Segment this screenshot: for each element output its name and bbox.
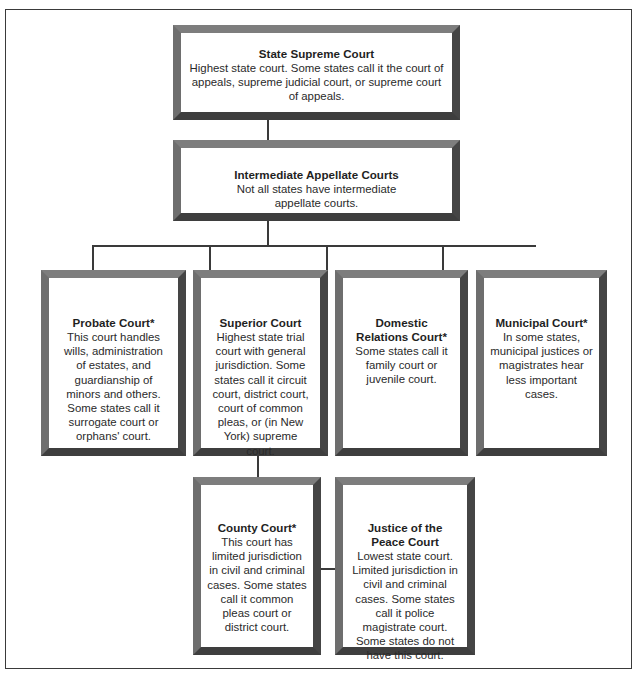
connector-to-domestic: [326, 245, 328, 271]
node-desc-line: Some states call it: [355, 344, 447, 358]
node-title: Superior Court: [220, 316, 302, 330]
node-desc-line: less important: [506, 373, 577, 387]
node-desc-line: call it police: [376, 606, 435, 620]
node-desc-line: of estates, and: [76, 358, 151, 372]
node-justice-of-the-peace-court: Justice of the Peace Court Lowest state …: [335, 477, 475, 655]
node-desc-line: orphans' court.: [76, 429, 151, 443]
node-desc-line: appellate courts.: [275, 196, 359, 210]
node-desc-line: district court.: [225, 620, 290, 634]
node-desc-line: York) supreme: [224, 429, 298, 443]
node-desc-line: In some states,: [503, 330, 580, 344]
node-desc-line: court, district court,: [212, 387, 308, 401]
node-municipal-court: Municipal Court* In some states, municip…: [476, 270, 607, 456]
node-desc-line: Some states call it: [67, 401, 159, 415]
node-desc-line: cases. Some states: [207, 578, 306, 592]
node-desc-line: jurisdiction. Some: [216, 358, 306, 372]
node-desc-line: civil and criminal: [363, 577, 447, 591]
node-desc-line: court of common: [218, 401, 303, 415]
node-desc-line: Highest state trial: [217, 330, 305, 344]
node-title: Relations Court*: [356, 330, 447, 344]
node-desc-line: surrogate court or: [69, 415, 159, 429]
connector-county-to-justice: [320, 568, 336, 570]
node-desc-line: juvenile court.: [366, 372, 436, 386]
connector-to-superior: [209, 245, 211, 271]
node-state-supreme-court: State Supreme Court Highest state court.…: [173, 25, 460, 120]
node-desc-line: This court handles: [67, 330, 160, 344]
connector-superior-to-county: [257, 455, 259, 479]
node-county-court: County Court* This court has limited jur…: [193, 477, 321, 655]
node-desc-line: minors and others.: [66, 387, 160, 401]
node-title: Municipal Court*: [495, 316, 587, 330]
node-domestic-relations-court: Domestic Relations Court* Some states ca…: [335, 270, 468, 456]
node-desc-line: Highest state court. Some states call it…: [190, 61, 444, 75]
node-desc-line: municipal justices or: [490, 344, 593, 358]
node-probate-court: Probate Court* This court handles wills,…: [41, 270, 186, 456]
node-superior-court: Superior Court Highest state trial court…: [193, 270, 328, 456]
node-title: Intermediate Appellate Courts: [234, 168, 399, 182]
node-desc-line: have this court.: [366, 648, 443, 662]
connector-to-probate: [92, 245, 94, 271]
node-title: Probate Court*: [73, 316, 155, 330]
connector-horizontal-bus: [92, 245, 536, 247]
node-desc-line: wills, administration: [64, 344, 163, 358]
node-desc-line: court.: [246, 444, 275, 458]
node-desc-line: Not all states have intermediate: [237, 182, 397, 196]
node-desc-line: Lowest state court.: [357, 549, 453, 563]
node-desc-line: family court or: [366, 358, 438, 372]
connector-to-municipal: [442, 245, 444, 271]
node-desc-line: limited jurisdiction: [212, 549, 302, 563]
node-desc-line: appeals, supreme judicial court, or supr…: [192, 75, 441, 89]
node-intermediate-appellate-courts: Intermediate Appellate Courts Not all st…: [173, 140, 460, 221]
node-desc-line: Some states do not: [356, 634, 454, 648]
node-desc-line: magistrates hear: [499, 358, 584, 372]
node-title: State Supreme Court: [259, 47, 374, 61]
node-desc-line: Limited jurisdiction in: [352, 563, 458, 577]
connector-intermediate-down: [267, 220, 269, 246]
node-desc-line: magistrate court.: [363, 620, 448, 634]
node-desc-line: call it common: [221, 592, 294, 606]
node-desc-line: of appeals.: [289, 89, 345, 103]
node-desc-line: court with general: [216, 344, 306, 358]
node-desc-line: cases.: [525, 387, 558, 401]
node-desc-line: states call it circuit: [214, 373, 306, 387]
node-desc-line: pleas, or (in New: [218, 415, 303, 429]
node-title: County Court*: [218, 521, 297, 535]
node-desc-line: pleas court or: [222, 606, 291, 620]
node-desc-line: cases. Some states: [355, 592, 454, 606]
connector-supreme-to-intermediate: [267, 119, 269, 141]
node-title: Peace Court: [371, 535, 439, 549]
node-title: Domestic: [375, 316, 427, 330]
node-title: Justice of the: [368, 521, 443, 535]
node-desc-line: This court has: [221, 535, 293, 549]
node-desc-line: guardianship of: [75, 373, 153, 387]
node-desc-line: in civil and criminal: [209, 563, 305, 577]
